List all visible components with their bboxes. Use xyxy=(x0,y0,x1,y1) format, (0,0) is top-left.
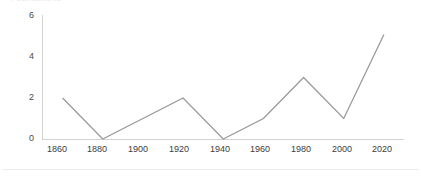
xtick-label-4: 1940 xyxy=(210,144,230,154)
ytick-label-2: 4 xyxy=(29,51,34,61)
data-series-line xyxy=(63,34,384,139)
xtick-label-8: 2020 xyxy=(372,144,392,154)
xtick-label-5: 1960 xyxy=(250,144,270,154)
ytick-label-1: 2 xyxy=(29,92,34,102)
xtick-label-7: 2000 xyxy=(332,144,352,154)
xtick-label-1: 1880 xyxy=(87,144,107,154)
xtick-label-3: 1920 xyxy=(169,144,189,154)
x-tick-labels: 1860 1880 1900 1920 1940 1960 1980 2000 … xyxy=(47,144,392,154)
bottom-divider xyxy=(2,169,419,170)
y-tick-labels: 0 2 4 6 xyxy=(29,10,34,143)
xtick-label-2: 1900 xyxy=(128,144,148,154)
ytick-label-3: 6 xyxy=(29,10,34,20)
chart-figure: Publications 0 2 4 6 1860 1880 1900 1920… xyxy=(0,0,421,177)
line-chart-plot: 0 2 4 6 1860 1880 1900 1920 1940 1960 19… xyxy=(0,0,421,177)
xtick-label-6: 1980 xyxy=(291,144,311,154)
xtick-label-0: 1860 xyxy=(47,144,67,154)
ytick-label-0: 0 xyxy=(29,133,34,143)
